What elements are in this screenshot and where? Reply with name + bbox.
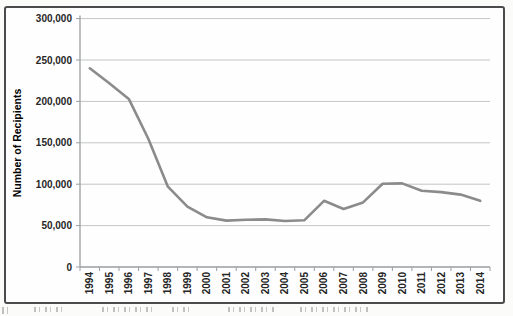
cut-off-caption-fragment [172,307,190,312]
x-tick-label: 1997 [143,272,154,295]
y-tick-label: 300,000 [36,13,73,24]
x-tick-label-group: 1998 [162,272,173,295]
x-tick-label-group: 1994 [84,272,95,295]
x-tick-label: 1994 [84,272,95,295]
x-tick-label-group: 1995 [104,272,115,295]
cut-off-caption-fragment [34,307,64,312]
x-tick-label-group: 2003 [260,272,271,295]
x-tick-label: 1995 [104,272,115,295]
x-tick-label-group: 2006 [318,272,329,295]
cut-off-caption-fragment [102,307,157,312]
x-tick-label-group: 2010 [397,272,408,295]
y-axis-title-text: Number of Recipients [11,89,23,198]
x-tick-label: 2013 [455,272,466,295]
x-tick-label-group: 2009 [377,272,388,295]
x-tick-label-group: 2007 [338,272,349,295]
x-tick-label: 2000 [201,272,212,295]
x-tick-label-group: 2005 [299,272,310,295]
x-tick-label-group: 2001 [221,272,232,295]
x-tick-label-group: 2000 [201,272,212,295]
y-tick-label: 150,000 [36,137,73,148]
x-tick-label: 1996 [123,272,134,295]
x-axis-tick-labels: 1994199519961997199819992000200120022003… [84,272,485,295]
x-tick-label-group: 2008 [357,272,368,295]
x-tick-label: 2003 [260,272,271,295]
x-tick-label-group: 2002 [240,272,251,295]
x-tick-label-group: 1997 [143,272,154,295]
x-tick-label: 2007 [338,272,349,295]
x-tick-label: 1998 [162,272,173,295]
y-tick-label: 50,000 [41,220,72,231]
y-tick-label: 250,000 [36,55,73,66]
x-tick-label: 2005 [299,272,310,295]
line-chart: 050,000100,000150,000200,000250,000300,0… [0,0,513,316]
x-tick-label: 2006 [318,272,329,295]
x-tick-label: 2010 [397,272,408,295]
x-tick-label-group: 1999 [182,272,193,295]
x-tick-label-group: 1996 [123,272,134,295]
x-tick-label-group: 2004 [279,272,290,295]
cut-off-caption-fragment [228,307,274,312]
x-tick-label: 2009 [377,272,388,295]
x-tick-label-group: 2014 [475,272,486,295]
x-tick-label: 2004 [279,272,290,295]
x-tick-label: 1999 [182,272,193,295]
y-tick-label: 0 [66,262,72,273]
x-tick-label-group: 2012 [436,272,447,295]
x-tick-label-group: 2013 [455,272,466,295]
x-tick-label: 2001 [221,272,232,295]
cut-off-caption-fragment [300,307,370,312]
x-tick-label-group: 2011 [416,272,427,294]
x-tick-label: 2011 [416,272,427,294]
cut-off-caption-fragment [2,307,12,314]
y-tick-label: 100,000 [36,179,73,190]
y-tick-label: 200,000 [36,96,73,107]
x-tick-label: 2012 [436,272,447,295]
x-tick-label: 2002 [240,272,251,295]
x-tick-label: 2008 [357,272,368,295]
y-axis-title: Number of Recipients [11,89,23,198]
chart-image: 050,000100,000150,000200,000250,000300,0… [0,0,513,316]
x-tick-label: 2014 [475,272,486,295]
